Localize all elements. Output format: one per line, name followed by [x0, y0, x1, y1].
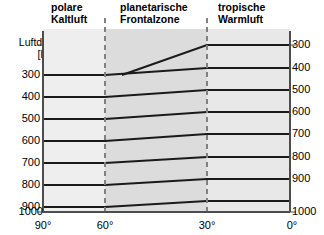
tick-right-400: 400	[292, 62, 324, 73]
plot-svg	[0, 0, 324, 235]
tick-x-60: 60°	[85, 219, 125, 231]
tick-right-600: 600	[292, 106, 324, 117]
tick-x-30: 30°	[187, 219, 227, 231]
tick-right-500: 500	[292, 84, 324, 95]
region-tropical-fill	[207, 29, 290, 212]
tick-right-800: 800	[292, 151, 324, 162]
tick-left-800: 800	[2, 179, 40, 190]
tick-right-700: 700	[292, 128, 324, 139]
tick-right-900: 900	[292, 173, 324, 184]
y-axis-left-ticks: 300 400 500 600 700 800 900 1000	[0, 0, 40, 235]
tick-right-300: 300	[292, 39, 324, 50]
tick-x-90: 90°	[23, 219, 63, 231]
tick-left-600: 600	[2, 135, 40, 146]
tick-left-700: 700	[2, 157, 40, 168]
tick-left-300: 300	[2, 69, 40, 80]
y-axis-right-ticks: 300 400 500 600 700 800 900 1000	[292, 0, 324, 235]
tick-right-1000: 1000	[292, 206, 324, 217]
tick-left-400: 400	[2, 91, 40, 102]
diagram-canvas: polare Kaltluft planetarische Frontalzon…	[0, 0, 324, 235]
tick-left-1000: 1000	[1, 206, 43, 217]
tick-left-500: 500	[2, 113, 40, 124]
tick-x-0: 0°	[272, 219, 312, 231]
